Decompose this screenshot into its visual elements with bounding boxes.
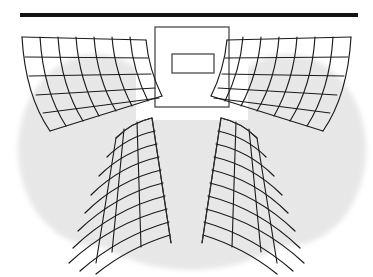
- stage: [155, 27, 229, 107]
- header-rule: [20, 13, 358, 17]
- seating-plan-figure: Auditorium Seating Plan Fan-shaped radia…: [0, 0, 373, 277]
- podium-outline: [172, 54, 214, 73]
- floor-plan-canvas: [0, 0, 373, 277]
